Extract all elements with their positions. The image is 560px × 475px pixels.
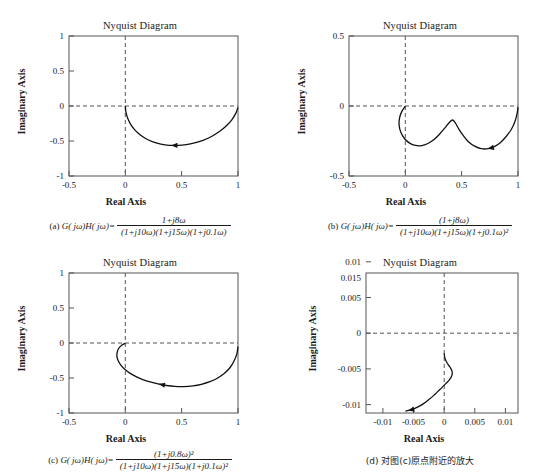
panel-b-ytick-label: -0.5 <box>330 171 345 181</box>
panel-a-nyquist-curve <box>125 106 238 145</box>
panel-d-xtick-label: 0.01 <box>498 417 514 427</box>
panel-a-xtick-label: 0.5 <box>176 180 188 190</box>
panel-c-caption-label: (c) <box>48 455 58 465</box>
panel-c-ytick-label: -1 <box>57 408 65 418</box>
panel-d-xtick-label: 0 <box>442 417 447 427</box>
panel-b-xtick-label: -0.5 <box>342 180 357 190</box>
panel-d-svg: -0.01 -0.005 0 0.005 0.01 -0.01 -0.005 0… <box>280 237 560 433</box>
panel-a-ytick-label: -1 <box>57 171 65 181</box>
panel-c-svg: -0.5 0 0.5 1 -1 -0.5 0 0.5 1 <box>0 237 280 433</box>
panel-a-ytick-label: 0 <box>60 101 65 111</box>
panel-a-numerator: 1+j8ω <box>158 215 190 225</box>
panel-a-svg: -0.5 0 0.5 1 -1 -0.5 0 0.5 1 <box>0 0 280 196</box>
panel-d-plot-area: Nyquist Diagram -0.01 -0.005 0 <box>280 237 560 433</box>
panel-a-transfer-fraction: 1+j8ω (1+j10ω)(1+j15ω)(1+j0.1ω) <box>117 215 231 238</box>
panel-c-ylabel: Imaginary Axis <box>16 294 27 384</box>
panel-a-caption: (a) G( jω)H( jω)= 1+j8ω (1+j10ω)(1+j15ω)… <box>0 215 280 238</box>
panel-c-caption: (c) G( jω)H( jω)= (1+j0.8ω)² (1+j10ω)(1+… <box>0 449 280 472</box>
panel-b-xlabel: Real Axis <box>266 196 546 207</box>
panel-d-plot-frame <box>366 273 518 413</box>
panel-d-xtick-label: -0.01 <box>374 417 393 427</box>
panel-a-caption-label: (a) <box>49 221 59 231</box>
panel-a-ytick-label: 1 <box>60 31 65 41</box>
panel-d-caption-body: 对图(c)原点附近的放大 <box>381 456 474 466</box>
panel-a-direction-arrow <box>171 143 177 148</box>
panel-d-ytick-label: -0.01 <box>342 400 361 410</box>
panel-c-ytick-label: 1 <box>60 268 65 278</box>
panel-b-svg: -0.5 0 0.5 1 -0.5 0 0.5 <box>280 0 560 196</box>
panel-c-direction-arrow <box>159 383 166 388</box>
panel-a-ytick-label: 0.5 <box>53 66 65 76</box>
panel-d-ytick-label: 0.005 <box>341 293 362 303</box>
panel-d-ytick-label: 0.015 <box>341 273 362 283</box>
panel-c-plot-area: Nyquist Diagram -0.5 0 0.5 1 -1 -0.5 <box>0 237 280 433</box>
panel-b-denominator: (1+j10ω)(1+j15ω)(1+j0.1ω)² <box>396 225 512 237</box>
panel-c-caption-lead: (c) G( jω)H( jω)= <box>48 455 114 465</box>
panel-b-caption-label: (b) <box>328 221 339 231</box>
panel-c-xtick-label: 0.5 <box>176 417 188 427</box>
panel-b-numerator: (1+j8ω) <box>435 215 473 225</box>
panel-b-xtick-label: 1 <box>516 180 521 190</box>
panel-b-nyquist-curve <box>399 106 518 149</box>
panel-c-numerator: (1+j0.8ω)² <box>150 449 197 459</box>
panel-b-plot-area: Nyquist Diagram -0.5 0 0.5 1 -0.5 0 0.5 <box>280 0 560 196</box>
panel-a-denominator: (1+j10ω)(1+j15ω)(1+j0.1ω) <box>117 225 231 237</box>
panel-a-ylabel: Imaginary Axis <box>16 57 27 147</box>
panel-b: Nyquist Diagram -0.5 0 0.5 1 -0.5 0 0.5 <box>280 0 560 237</box>
panel-b-xtick-label: 0 <box>403 180 408 190</box>
panel-a-plot-area: Nyquist Diagram -0.5 0 <box>0 0 280 196</box>
panel-b-caption: (b) G( jω)H( jω)= (1+j8ω) (1+j10ω)(1+j15… <box>280 215 560 238</box>
panel-a-caption-lead: (a) G( jω)H( jω)= <box>49 221 115 231</box>
panel-d-ytick-label: 0 <box>357 328 362 338</box>
panel-a-ytick-label: -0.5 <box>50 136 65 146</box>
panel-d-nyquist-curve <box>405 353 452 411</box>
panel-d-xlabel: Real Axis <box>284 433 560 444</box>
panel-d-ytick-label: 0.01 <box>345 257 361 267</box>
panel-c-nyquist-curve <box>117 343 238 386</box>
panel-b-transfer-lead: G( jω)H( jω)= <box>341 221 394 231</box>
panel-d-ytick-label: -0.005 <box>338 364 362 374</box>
figure-grid: Nyquist Diagram -0.5 0 <box>0 0 560 475</box>
panel-b-ytick-label: 0.5 <box>333 31 345 41</box>
panel-c-transfer-lead: G( jω)H( jω)= <box>60 455 113 465</box>
panel-b-transfer-fraction: (1+j8ω) (1+j10ω)(1+j15ω)(1+j0.1ω)² <box>396 215 512 238</box>
panel-b-xtick-label: 0.5 <box>456 180 468 190</box>
panel-c-xtick-label: 1 <box>236 417 241 427</box>
panel-c-transfer-fraction: (1+j0.8ω)² (1+j10ω)(1+j15ω)(1+j0.1ω)² <box>116 449 232 472</box>
panel-d-caption-label: (d) <box>366 456 379 466</box>
panel-d-xtick-label: -0.005 <box>402 417 426 427</box>
panel-a-transfer-lead: G( jω)H( jω)= <box>62 221 115 231</box>
panel-d-xtick-label: 0.005 <box>465 417 486 427</box>
panel-a-xtick-label: -0.5 <box>62 180 77 190</box>
panel-c-denominator: (1+j10ω)(1+j15ω)(1+j0.1ω)² <box>116 459 232 471</box>
panel-b-caption-lead: (b) G( jω)H( jω)= <box>328 221 394 231</box>
panel-c-xtick-label: -0.5 <box>62 417 77 427</box>
panel-c-ytick-label: 0 <box>60 338 65 348</box>
panel-d-caption-text: (d) 对图(c)原点附近的放大 <box>366 456 475 466</box>
panel-d-ylabel: Imaginary Axis <box>307 294 318 384</box>
panel-d: Nyquist Diagram -0.01 -0.005 0 <box>280 237 560 475</box>
panel-b-ylabel: Imaginary Axis <box>296 57 307 147</box>
panel-c-ytick-label: 0.5 <box>53 303 65 313</box>
panel-d-caption: (d) 对图(c)原点附近的放大 <box>280 456 560 466</box>
panel-c-ytick-label: -0.5 <box>50 373 65 383</box>
panel-a-xlabel: Real Axis <box>0 196 266 207</box>
panel-c-xlabel: Real Axis <box>0 433 266 444</box>
panel-c-xtick-label: 0 <box>123 417 128 427</box>
panel-a-xtick-label: 1 <box>236 180 241 190</box>
panel-b-ytick-label: 0 <box>340 101 345 111</box>
panel-a-xtick-label: 0 <box>123 180 128 190</box>
panel-c: Nyquist Diagram -0.5 0 0.5 1 -1 -0.5 <box>0 237 280 475</box>
panel-a: Nyquist Diagram -0.5 0 <box>0 0 280 237</box>
